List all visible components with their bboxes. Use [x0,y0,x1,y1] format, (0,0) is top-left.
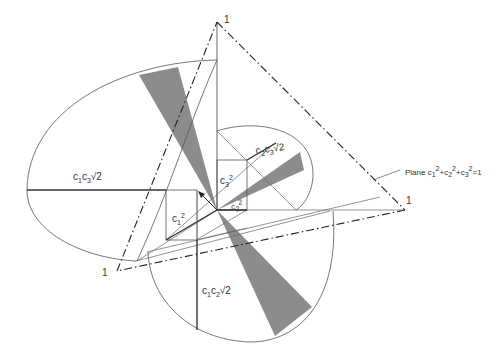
vertex-label-top: 1 [224,15,230,25]
sector-lower [217,210,312,336]
semicircle-lower [148,211,334,342]
label-c2-squared: c22 [230,198,244,213]
plane-leader [373,170,400,180]
label-c1c2-sqrt2: c1c2√2 [202,286,231,298]
vertex-label-right: 1 [406,196,412,206]
label-c1-squared: c12 [172,212,185,226]
label-c1c3-sqrt2: c1c3√2 [73,172,102,184]
label-c3-squared: c32 [220,174,233,188]
vertex-label-left: 1 [102,268,108,278]
label-plane-equation: Plane c12+c22+c32=1 [405,165,482,178]
